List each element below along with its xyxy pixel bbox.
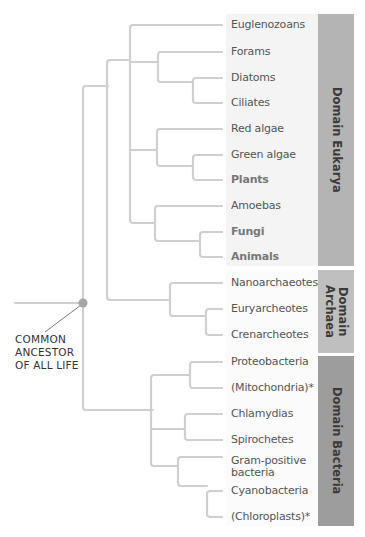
common-ancestor-label: COMMON ANCESTOR OF ALL LIFE	[15, 333, 79, 372]
leaf-nanoarchaeotes: Nanoarchaeotes	[231, 277, 318, 289]
domain-bacteria-band: Domain Bacteria	[318, 356, 354, 526]
leaf-fungi: Fungi	[231, 226, 264, 238]
eukarya-stem	[130, 25, 222, 223]
leaf-forams: Forams	[231, 46, 270, 58]
domain-archaea-line-1: Domain	[336, 287, 350, 336]
root-branch	[83, 86, 150, 410]
domain-bacteria-label: Domain Bacteria	[330, 387, 343, 494]
gram-positive-line-2: bacteria	[231, 466, 275, 479]
leaf-mitochondria: (Mitochondria)*	[231, 382, 314, 394]
leaf-crenarcheotes: Crenarcheotes	[231, 329, 308, 341]
leaf-proteobacteria: Proteobacteria	[231, 356, 309, 368]
ancestor-pointer	[45, 305, 81, 332]
leaf-euryarcheotes: Euryarcheotes	[231, 303, 308, 315]
domain-archaea-line-2: Archaea	[323, 285, 337, 338]
leaf-red-algae: Red algae	[231, 123, 284, 135]
leaf-chloroplasts: (Chloroplasts)*	[231, 511, 310, 523]
leaf-euglenozoans: Euglenozoans	[231, 19, 305, 31]
leaf-amoebas: Amoebas	[231, 200, 281, 212]
eukarya-archaea-branch	[107, 60, 170, 300]
leaf-diatoms: Diatoms	[231, 72, 275, 84]
common-ancestor-node	[79, 299, 88, 308]
ancestor-line-1: COMMON	[15, 333, 79, 346]
phylogenetic-tree	[0, 0, 365, 537]
domain-archaea-band: DomainArchaea	[318, 270, 354, 353]
ancestor-line-3: OF ALL LIFE	[15, 359, 79, 372]
leaf-gram-positive-bacteria: Gram-positivebacteria	[231, 455, 306, 479]
ancestor-line-2: ANCESTOR	[15, 346, 79, 359]
domain-archaea-label: DomainArchaea	[323, 285, 349, 338]
leaf-ciliates: Ciliates	[231, 97, 270, 109]
domain-eukarya-label: Domain Eukarya	[330, 87, 343, 193]
leaf-plants: Plants	[231, 174, 269, 186]
leaf-green-algae: Green algae	[231, 149, 296, 161]
leaf-animals: Animals	[231, 251, 279, 263]
leaf-spirochetes: Spirochetes	[231, 434, 293, 446]
domain-eukarya-band: Domain Eukarya	[318, 14, 354, 266]
leaf-cyanobacteria: Cyanobacteria	[231, 485, 308, 497]
leaf-chlamydias: Chlamydias	[231, 408, 293, 420]
